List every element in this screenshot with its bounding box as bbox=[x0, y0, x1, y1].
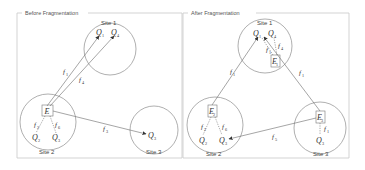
svg-text:3: 3 bbox=[154, 136, 156, 141]
fragmentation-diagram: Before Fragmentation Site 1 Q 1 Q 4 E Q … bbox=[0, 0, 365, 170]
site-label: Site 2 bbox=[39, 149, 55, 155]
site-label: Site 3 bbox=[146, 149, 162, 155]
site-label: Site 1 bbox=[257, 20, 273, 26]
svg-text:4: 4 bbox=[274, 34, 277, 39]
svg-text:3: 3 bbox=[225, 141, 227, 146]
svg-text:2: 2 bbox=[205, 141, 207, 146]
site-circle bbox=[20, 94, 76, 150]
svg-text:1: 1 bbox=[259, 34, 261, 39]
svg-text:4: 4 bbox=[281, 46, 284, 51]
svg-text:2: 2 bbox=[204, 127, 206, 132]
site-2: E 2 Q 2 Q 3 Site 2 bbox=[187, 97, 243, 157]
svg-text:2: 2 bbox=[37, 125, 39, 130]
svg-text:2: 2 bbox=[38, 138, 40, 143]
flow-label: f 4 bbox=[79, 76, 85, 85]
flow-edge bbox=[212, 37, 258, 105]
svg-text:6: 6 bbox=[58, 125, 60, 130]
panel-after: After Fragmentation Site 1 Q 1 Q 4 E 1 E… bbox=[183, 10, 349, 158]
site-1: Site 1 Q 1 Q 4 E 1 bbox=[238, 19, 292, 73]
flow-label: f 2 bbox=[201, 123, 206, 132]
svg-text:3: 3 bbox=[106, 129, 108, 134]
svg-text:3: 3 bbox=[58, 138, 60, 143]
flow-label: f 1 bbox=[299, 69, 304, 78]
flow-label: f 4 bbox=[278, 42, 284, 51]
flow-label: f 2 bbox=[34, 121, 39, 130]
svg-text:1: 1 bbox=[302, 73, 304, 78]
svg-text:1: 1 bbox=[233, 72, 235, 77]
site-1: Site 1 Q 1 Q 4 bbox=[84, 20, 136, 75]
panel-title: After Fragmentation bbox=[191, 10, 240, 16]
svg-text:5: 5 bbox=[275, 137, 277, 142]
svg-text:1: 1 bbox=[66, 72, 68, 77]
flow-edge bbox=[215, 117, 222, 135]
svg-text:4: 4 bbox=[82, 80, 85, 85]
site-circle bbox=[130, 106, 178, 154]
svg-text:1: 1 bbox=[276, 62, 278, 67]
flow-edge bbox=[203, 117, 211, 135]
site-label: Site 3 bbox=[313, 151, 329, 157]
site-circle bbox=[238, 19, 292, 73]
flow-label: f 3 bbox=[103, 125, 108, 134]
svg-text:1: 1 bbox=[269, 50, 271, 55]
flow-label: f 1 bbox=[230, 68, 235, 77]
site-2: E Q 2 Q 3 Site 2 bbox=[20, 94, 76, 155]
flow-edge bbox=[50, 36, 114, 106]
svg-text:1: 1 bbox=[102, 33, 104, 38]
flow-label: f 6 bbox=[222, 123, 227, 132]
site-3: E 3 Q 3 Site 3 bbox=[294, 102, 346, 157]
svg-text:6: 6 bbox=[225, 127, 227, 132]
flow-edge bbox=[47, 36, 99, 106]
panel-title: Before Fragmentation bbox=[25, 10, 78, 16]
svg-text:4: 4 bbox=[117, 33, 120, 38]
flow-label: f 6 bbox=[55, 121, 60, 130]
site-label: Site 1 bbox=[101, 20, 117, 26]
svg-text:3: 3 bbox=[321, 118, 323, 123]
panel-frame bbox=[183, 13, 349, 158]
site-circle bbox=[84, 23, 136, 75]
site-3: Q 3 Site 3 bbox=[130, 106, 178, 155]
flow-label: f 5 bbox=[272, 133, 277, 142]
flow-edge bbox=[53, 111, 146, 134]
svg-text:E: E bbox=[44, 107, 50, 116]
panel-before: Before Fragmentation Site 1 Q 1 Q 4 E Q … bbox=[17, 10, 182, 158]
site-label: Site 2 bbox=[206, 151, 222, 157]
svg-text:2: 2 bbox=[213, 112, 215, 117]
flow-label: f 1 bbox=[63, 68, 68, 77]
svg-text:3: 3 bbox=[322, 141, 324, 146]
svg-text:1: 1 bbox=[327, 129, 329, 134]
flow-label: f 1 bbox=[266, 46, 271, 55]
flow-label: f 1 bbox=[324, 125, 329, 134]
